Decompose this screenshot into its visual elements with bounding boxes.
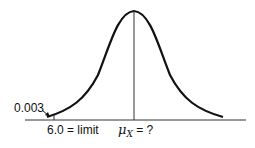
mean-suffix: = ? — [133, 123, 154, 137]
bell-curve — [47, 11, 223, 117]
tail-probability-label: 0.003 — [14, 101, 44, 115]
mean-label: μX = ? — [118, 122, 154, 139]
normal-curve-diagram: 0.003 6.0 = limit μX = ? — [0, 0, 255, 148]
mean-symbol: μ — [118, 122, 126, 137]
limit-label: 6.0 = limit — [47, 123, 99, 137]
